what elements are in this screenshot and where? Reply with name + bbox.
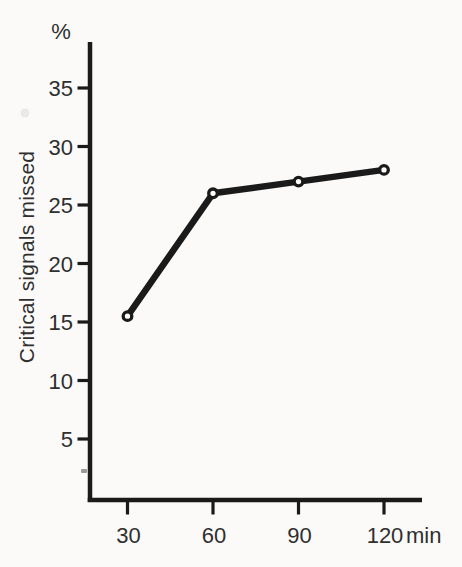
data-point-marker: [294, 177, 303, 186]
line-chart: % Critical signals missed min 5101520253…: [0, 0, 462, 567]
data-point-marker: [209, 189, 218, 198]
scan-speck: [81, 469, 87, 473]
y-tick-label: 35: [49, 76, 73, 101]
y-tick-label: 10: [49, 369, 73, 394]
y-axis-percent-label: %: [51, 19, 71, 44]
scan-smudge: [21, 109, 30, 118]
x-tick-label: 30: [116, 523, 140, 548]
y-tick-label: 30: [49, 135, 73, 160]
x-tick-label: 120: [367, 523, 404, 548]
x-tick-label: 60: [202, 523, 226, 548]
y-tick-label: 25: [49, 193, 73, 218]
x-tick-label: 90: [287, 523, 311, 548]
data-point-marker: [380, 166, 389, 175]
y-tick-label: 20: [49, 252, 73, 277]
data-point-marker: [123, 312, 132, 321]
y-tick-label: 15: [49, 310, 73, 335]
x-axis-unit-label: min: [406, 523, 441, 548]
scanned-figure-page: % Critical signals missed min 5101520253…: [0, 0, 462, 567]
y-axis-title: Critical signals missed: [15, 151, 38, 363]
y-tick-label: 5: [61, 427, 73, 452]
